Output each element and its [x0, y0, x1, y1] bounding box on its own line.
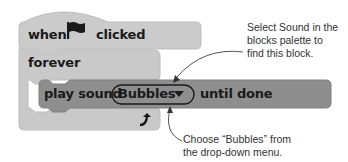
annotation-top-line-3: find this block.: [247, 47, 338, 60]
play-sound-label: play sound: [44, 86, 122, 101]
clicked-label: clicked: [96, 27, 145, 42]
annotation-top-line-1: Select Sound in the: [247, 21, 338, 34]
annotation-bottom-line-2: the drop-down menu.: [183, 146, 291, 159]
annotation-top: Select Sound in the blocks palette to fi…: [247, 21, 338, 60]
forever-label: forever: [28, 55, 80, 70]
annotation-bottom-line-1: Choose “Bubbles” from: [183, 133, 291, 146]
annotation-top-line: [177, 51, 243, 77]
annotation-top-line-2: blocks palette to: [247, 34, 338, 47]
annotation-bottom-line: [169, 109, 183, 141]
when-label: when: [28, 27, 67, 42]
sound-dropdown[interactable]: Bubbles: [118, 86, 175, 101]
annotation-bottom: Choose “Bubbles” from the drop-down menu…: [183, 133, 291, 159]
until-done-label: until done: [200, 86, 272, 101]
